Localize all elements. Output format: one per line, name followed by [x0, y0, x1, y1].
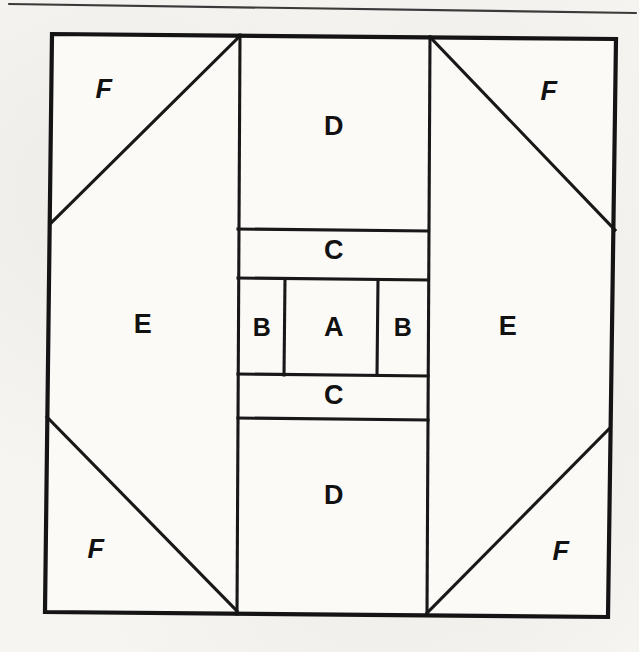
patch-label-f-top-left: F [96, 74, 114, 104]
patch-label-d-bottom: D [324, 480, 344, 510]
patch-label-d-top: D [324, 111, 344, 141]
patch-label-b-left: B [253, 313, 272, 341]
patch-label-c-top: C [324, 235, 344, 265]
seam-horizontal-c-top-upper [238, 229, 428, 231]
seam-horizontal-c-bottom-upper [238, 374, 428, 376]
patch-label-e-left: E [134, 309, 153, 339]
scanned-page: B A B C C D D E E F F F F [0, 0, 639, 652]
patch-label-f-bottom-right: F [553, 536, 571, 566]
patch-label-c-bottom: C [324, 380, 344, 410]
seam-vertical-a-right [377, 280, 378, 375]
pieced-block-diagram: B A B C C D D E E F F F F [0, 0, 639, 652]
seam-horizontal-c-top-lower [238, 278, 428, 280]
seam-vertical-a-left [284, 279, 285, 375]
patch-label-f-top-right: F [541, 76, 559, 106]
patch-label-f-bottom-left: F [88, 534, 106, 564]
top-horizontal-rule [9, 4, 636, 13]
patch-label-e-right: E [499, 311, 518, 341]
patch-label-a: A [324, 312, 344, 342]
patch-label-b-right: B [394, 313, 413, 341]
seam-horizontal-c-bottom-lower [238, 418, 428, 420]
